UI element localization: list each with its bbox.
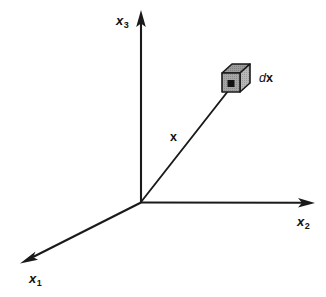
cube-point-marker — [228, 80, 235, 87]
volume-element-cube — [222, 64, 250, 92]
vector-label-x-text: x — [170, 130, 177, 144]
figure-canvas: x3 x2 x1 x dx — [0, 0, 326, 297]
axis-x1-line — [33, 203, 141, 258]
caption-remnant — [118, 288, 228, 296]
axis-x3 — [136, 10, 146, 202]
axis-x2 — [141, 198, 315, 208]
axis-x1 — [20, 203, 141, 264]
axis-label-x2-base: x — [297, 214, 304, 229]
vector-label-x: x — [170, 131, 177, 144]
position-vector-x — [141, 86, 232, 202]
axis-label-x3: x3 — [116, 12, 129, 30]
volume-element-label-vector: x — [266, 71, 273, 85]
axis-label-x3-subscript: 3 — [124, 20, 129, 30]
volume-element-label-dx: dx — [259, 72, 273, 85]
vector-x-line — [141, 86, 232, 202]
axis-label-x2-subscript: 2 — [305, 221, 310, 231]
axis-label-x2: x2 — [297, 213, 310, 231]
volume-element-label-prefix: d — [259, 71, 266, 85]
coordinate-diagram — [0, 0, 326, 297]
axis-label-x1: x1 — [29, 270, 42, 288]
axis-label-x3-base: x — [116, 13, 123, 28]
axis-label-x1-subscript: 1 — [37, 278, 42, 288]
axis-label-x1-base: x — [29, 271, 36, 286]
axis-x1-arrowhead — [20, 252, 38, 264]
